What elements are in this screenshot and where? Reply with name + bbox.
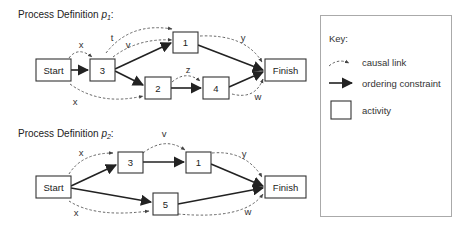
svg-text:ordering constraint: ordering constraint (362, 78, 441, 89)
causal-3-1-t (106, 28, 172, 53)
ordering-3-1 (115, 43, 171, 69)
ordering-5-finish (178, 188, 263, 204)
causal-start-3 (69, 153, 113, 174)
activity-finish: Finish (265, 59, 306, 81)
causal-label-w: w (244, 206, 252, 217)
causal-label-x: x (74, 207, 79, 218)
legend-title: Key: (329, 33, 348, 44)
svg-text:3: 3 (100, 65, 105, 76)
activity-icon (331, 101, 351, 119)
causal-label-x: x (73, 96, 78, 107)
causal-label-v: v (126, 39, 131, 50)
svg-text:Finish: Finish (273, 182, 298, 193)
activity-start: Start (36, 176, 71, 198)
causal-label-v: v (162, 128, 167, 139)
causal-start-5 (69, 201, 149, 213)
process-definition-p1: Process Definition p1: x x t v z y w Sta… (18, 9, 306, 107)
activity-4: 4 (203, 77, 229, 99)
legend: Key: causal link ordering constraint act… (321, 16, 452, 217)
svg-text:Start: Start (43, 65, 63, 76)
process-definitions-diagram: Process Definition p1: x x t v z y w Sta… (0, 0, 462, 229)
svg-text:1: 1 (196, 157, 201, 168)
causal-start-3 (69, 52, 92, 58)
svg-text:4: 4 (213, 83, 218, 94)
svg-text:Finish: Finish (273, 65, 298, 76)
svg-text:5: 5 (163, 199, 168, 210)
causal-label-y: y (242, 148, 247, 159)
ordering-1-finish (198, 45, 263, 70)
causal-label-x: x (79, 39, 84, 50)
p2-title: Process Definition p2: (18, 128, 114, 140)
activity-start: Start (36, 59, 71, 81)
svg-text:Start: Start (43, 182, 63, 193)
activity-3: 3 (118, 152, 143, 173)
causal-3-1-v (113, 40, 172, 57)
causal-label-y: y (241, 32, 246, 43)
causal-label-x: x (79, 147, 84, 158)
process-definition-p2: Process Definition p2: x x v y w Start 3… (18, 128, 306, 218)
activity-1: 1 (173, 32, 198, 53)
svg-text:3: 3 (128, 157, 133, 168)
ordering-start-3 (71, 165, 116, 186)
svg-text:activity: activity (362, 105, 391, 116)
causal-2-4 (172, 76, 200, 82)
ordering-3-2 (115, 71, 143, 85)
ordering-4-finish (229, 72, 263, 87)
ordering-start-5 (71, 188, 151, 202)
activity-finish: Finish (265, 176, 306, 198)
svg-text:causal link: causal link (362, 57, 407, 68)
causal-label-t: t (111, 32, 114, 43)
activity-5: 5 (153, 193, 178, 215)
causal-label-z: z (186, 64, 191, 75)
activity-1: 1 (186, 152, 211, 173)
causal-label-w: w (254, 91, 262, 102)
activity-3: 3 (90, 59, 115, 81)
ordering-1-finish (211, 164, 263, 186)
p1-title: Process Definition p1: (18, 9, 114, 21)
causal-1-finish (212, 153, 262, 177)
causal-start-2 (70, 84, 143, 99)
svg-text:1: 1 (183, 37, 188, 48)
activity-2: 2 (145, 77, 171, 99)
svg-text:2: 2 (155, 83, 160, 94)
causal-3-1 (143, 144, 185, 153)
